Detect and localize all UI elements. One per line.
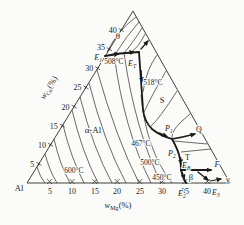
- tick-label: 35: [97, 43, 105, 52]
- point-label-e3: E3: [211, 188, 220, 198]
- corner-label-al: Al: [15, 183, 24, 193]
- tick-label: 10: [68, 187, 76, 196]
- tick-label: 20: [62, 103, 70, 112]
- region-label-theta: θ: [116, 31, 120, 41]
- tick-label: 40: [203, 187, 211, 196]
- isotherm-line: [37, 167, 45, 183]
- p1-q-line: [172, 134, 195, 139]
- isotherm-label-500: 500°C: [140, 158, 159, 167]
- tick-label: 25: [136, 187, 144, 196]
- region-label-gamma: γ: [225, 174, 230, 184]
- bottom-axis-tick-labels: 5 10 15 20 25 30 35 40: [48, 187, 211, 196]
- arrow-into-eb: [181, 157, 182, 164]
- isotherm-label-450: 450°C: [152, 173, 171, 182]
- point-label-e1: E1: [93, 53, 102, 63]
- t-boundary-line: [181, 149, 211, 152]
- tick-label: 20: [113, 187, 121, 196]
- theta-contour: [131, 34, 145, 52]
- point-label-eb: EB: [181, 161, 191, 171]
- point-label-q: Q: [196, 125, 202, 134]
- point-label-f: F: [214, 160, 220, 169]
- triangle-outline: [27, 11, 230, 183]
- t-field-lines: [174, 141, 211, 152]
- tick-label: 30: [158, 187, 166, 196]
- isotherm-line: [54, 139, 70, 183]
- gamma-line: [210, 179, 221, 181]
- theta-contour: [124, 28, 142, 53]
- point-label-et: ET: [127, 59, 137, 69]
- isotherm-line: [45, 154, 57, 183]
- isotherm-line: [80, 97, 112, 183]
- tick-label: 15: [91, 187, 99, 196]
- tick-label: 10: [38, 141, 46, 150]
- point-label-p2: P2: [167, 149, 176, 159]
- isotherm-label-508: 508°C: [104, 57, 123, 66]
- point-label-p1: P1: [164, 124, 173, 134]
- isotherm-label-518: 518°C: [143, 78, 162, 87]
- beta-e3-line: [198, 172, 208, 180]
- s-contour: [172, 114, 190, 138]
- region-label-beta: β: [189, 172, 193, 182]
- left-axis-title: wCu(%): [38, 74, 61, 102]
- isotherm-label-600: 600°C: [64, 166, 83, 175]
- t-boundary-line: [174, 141, 207, 144]
- region-label-alpha-al: α-Al: [85, 125, 102, 135]
- al-cu-mg-liquidus-projection-diagram: Al 5 10 15 20 25 30 35 40 5 10 15 20 25 …: [0, 0, 244, 225]
- et-exit-line: [141, 41, 148, 49]
- tick-label: 30: [85, 64, 93, 73]
- isotherm-label-467: 467°C: [131, 139, 150, 148]
- bottom-axis-title: wMg(%): [105, 200, 132, 211]
- tick-label: 25: [73, 83, 81, 92]
- arrow-down-alpha-s: [141, 70, 142, 82]
- tick-label: 5: [48, 187, 52, 196]
- tick-label: 15: [50, 122, 58, 131]
- tick-label: 5: [30, 160, 34, 169]
- region-label-s: S: [160, 95, 165, 105]
